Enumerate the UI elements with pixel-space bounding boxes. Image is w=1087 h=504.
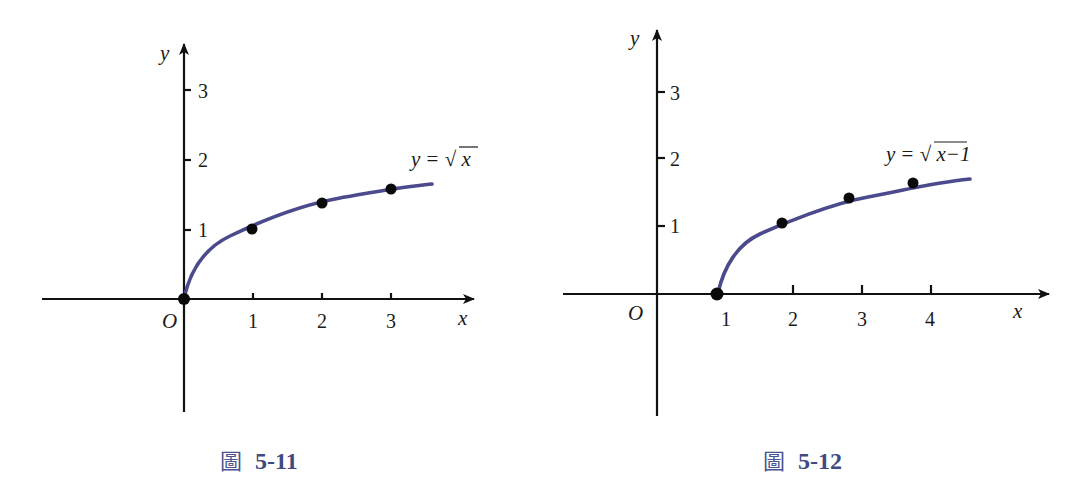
svg-text:5-12: 5-12 xyxy=(798,448,842,474)
x-tick-label-1: 1 xyxy=(721,308,731,330)
data-point-3-sqrt3 xyxy=(386,184,397,195)
y-tick-label-1: 1 xyxy=(198,219,208,241)
data-point-1-1 xyxy=(247,224,258,235)
y-axis-label: y xyxy=(158,41,170,65)
figure-canvas: 1 2 3 1 2 3 O x y y = √ x 圖 5-11 xyxy=(0,0,1087,504)
data-point-3-sqrt2 xyxy=(844,193,855,204)
x-tick-label-1: 1 xyxy=(248,310,258,332)
sqrt-curve xyxy=(184,184,432,299)
data-point-4-sqrt3 xyxy=(908,178,919,189)
y-tick-label-2: 2 xyxy=(670,148,680,170)
x-tick-label-3: 3 xyxy=(386,310,396,332)
svg-text:圖: 圖 xyxy=(220,449,242,474)
x-tick-label-2: 2 xyxy=(317,310,327,332)
x-axis-label: x xyxy=(457,306,468,330)
x-tick-label-3: 3 xyxy=(857,308,867,330)
y-tick-label-1: 1 xyxy=(670,215,680,237)
function-label: y = √ x−1 xyxy=(884,142,970,166)
y-tick-label-3: 3 xyxy=(670,82,680,104)
x-tick-label-4: 4 xyxy=(925,308,935,330)
data-point-0-0 xyxy=(178,293,190,305)
data-point-1-0 xyxy=(711,288,724,301)
chart-figure-5-11: 1 2 3 1 2 3 O x y y = √ x 圖 5-11 xyxy=(42,41,478,474)
origin-label: O xyxy=(628,301,643,325)
y-tick-label-3: 3 xyxy=(198,80,208,102)
figure-caption: 圖 5-12 xyxy=(763,448,842,474)
function-label: y = √ x xyxy=(409,147,478,171)
svg-text:5-11: 5-11 xyxy=(255,448,298,474)
data-point-2-1 xyxy=(777,218,788,229)
y-axis-label: y xyxy=(628,26,640,50)
svg-text:圖: 圖 xyxy=(763,449,785,474)
chart-figure-5-12: 1 2 3 4 1 2 3 O x y y = √ x−1 圖 xyxy=(563,26,1049,474)
y-tick-label-2: 2 xyxy=(198,149,208,171)
data-point-2-sqrt2 xyxy=(317,198,328,209)
svg-text:y = √: y = √ x xyxy=(409,147,471,171)
origin-label: O xyxy=(162,309,177,333)
x-axis-label: x xyxy=(1012,299,1023,323)
svg-text:y = √: y = √ x−1 xyxy=(884,142,970,166)
x-tick-label-2: 2 xyxy=(788,308,798,330)
figure-caption: 圖 5-11 xyxy=(220,448,298,474)
